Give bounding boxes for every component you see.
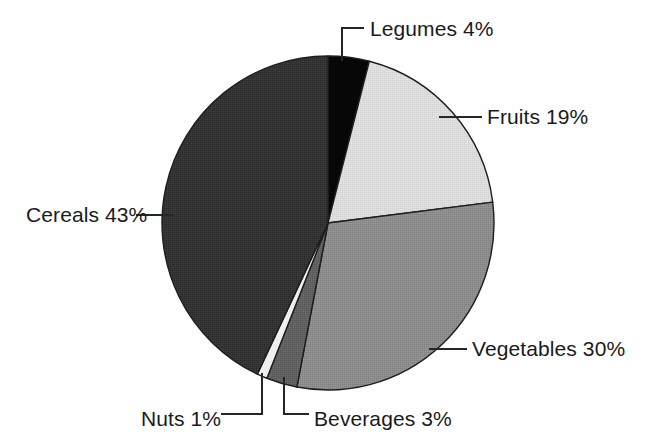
leader-line-legumes <box>342 28 363 60</box>
pie-label-vegetables: Vegetables 30% <box>472 338 625 359</box>
pie-label-legumes: Legumes 4% <box>370 18 494 39</box>
pie-label-beverages: Beverages 3% <box>314 408 452 429</box>
pie-chart: Legumes 4% Fruits 19% Vegetables 30% Bev… <box>0 0 652 445</box>
pie-label-cereals: Cereals 43% <box>26 204 147 225</box>
pie-slices <box>162 56 494 390</box>
leader-line-nuts <box>222 374 262 414</box>
pie-label-nuts: Nuts 1% <box>141 408 221 429</box>
pie-label-fruits: Fruits 19% <box>487 106 588 127</box>
